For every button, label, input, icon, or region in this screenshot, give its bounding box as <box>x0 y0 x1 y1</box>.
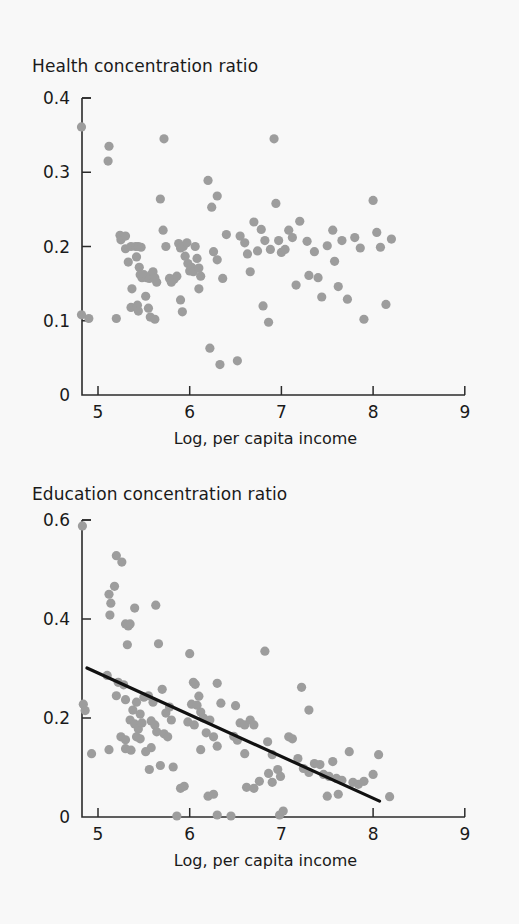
chart-panel-health: Health concentration ratio 00.10.20.30.4… <box>0 48 519 448</box>
data-point <box>156 194 165 203</box>
data-point <box>253 246 262 255</box>
data-point <box>317 292 326 301</box>
data-point <box>269 134 278 143</box>
data-point <box>376 243 385 252</box>
data-point <box>151 601 160 610</box>
data-point <box>169 762 178 771</box>
x-tick-label: 8 <box>368 402 379 422</box>
data-point <box>297 683 306 692</box>
y-tick-label: 0.4 <box>43 88 70 108</box>
data-point <box>334 282 343 291</box>
data-point <box>159 134 168 143</box>
x-tick-label: 7 <box>276 824 287 844</box>
data-point <box>291 281 300 290</box>
data-point <box>231 701 240 710</box>
data-point <box>126 746 135 755</box>
y-tick-label: 0.6 <box>43 510 70 530</box>
y-tick-label: 0.2 <box>43 708 70 728</box>
data-point <box>144 304 153 313</box>
data-point <box>106 599 115 608</box>
data-point <box>194 284 203 293</box>
x-axis-title: Log, per capita income <box>174 851 357 870</box>
data-point <box>112 314 121 323</box>
data-point <box>205 344 214 353</box>
data-point <box>159 226 168 235</box>
data-point <box>266 245 275 254</box>
x-tick-label: 8 <box>368 824 379 844</box>
data-point <box>130 604 139 613</box>
data-point <box>255 777 264 786</box>
data-point <box>240 749 249 758</box>
data-point <box>334 790 343 799</box>
data-point <box>330 257 339 266</box>
y-tick-label: 0.3 <box>43 162 70 182</box>
data-point <box>215 360 224 369</box>
data-point <box>123 640 132 649</box>
data-point <box>343 295 352 304</box>
data-point <box>381 300 390 309</box>
data-point <box>87 749 96 758</box>
data-point <box>191 680 200 689</box>
data-point <box>172 272 181 281</box>
data-point <box>310 247 319 256</box>
data-point <box>191 242 200 251</box>
data-point <box>369 196 378 205</box>
data-point <box>374 750 383 759</box>
data-point <box>104 142 113 151</box>
data-point <box>104 745 113 754</box>
data-point <box>190 720 199 729</box>
data-point <box>359 315 368 324</box>
data-point <box>268 778 277 787</box>
data-point <box>117 557 126 566</box>
chart-panel-education: Education concentration ratio 00.20.40.6… <box>0 480 519 910</box>
data-point <box>125 619 134 628</box>
data-point <box>313 273 322 282</box>
data-point <box>185 649 194 658</box>
data-point <box>145 765 154 774</box>
data-point <box>213 191 222 200</box>
data-point <box>147 743 156 752</box>
data-point <box>356 243 365 252</box>
data-point <box>369 770 378 779</box>
data-point <box>240 238 249 247</box>
data-point <box>103 157 112 166</box>
data-point <box>84 314 93 323</box>
x-tick-label: 6 <box>184 402 195 422</box>
data-point <box>196 272 205 281</box>
data-point <box>121 232 130 241</box>
x-tick-label: 7 <box>276 402 287 422</box>
data-point <box>328 757 337 766</box>
data-point <box>180 782 189 791</box>
data-point <box>359 777 368 786</box>
data-point <box>150 315 159 324</box>
data-point <box>249 720 258 729</box>
data-point <box>222 230 231 239</box>
data-point <box>105 610 114 619</box>
data-point <box>213 679 222 688</box>
data-point <box>213 810 222 819</box>
scatter-plot-health: 00.10.20.30.456789Log, per capita income <box>0 48 519 448</box>
data-point <box>315 760 324 769</box>
data-point <box>110 582 119 591</box>
data-point <box>203 176 212 185</box>
data-point <box>156 761 165 770</box>
data-point <box>271 199 280 208</box>
y-tick-label: 0.1 <box>43 311 70 331</box>
trend-line <box>87 668 380 801</box>
data-point <box>304 705 313 714</box>
data-point <box>152 278 161 287</box>
data-point <box>167 715 176 724</box>
data-point <box>132 252 141 261</box>
data-point <box>246 267 255 276</box>
data-point <box>121 695 130 704</box>
data-point <box>304 271 313 280</box>
scatter-plot-education: 00.20.40.656789Log, per capita income <box>0 480 519 910</box>
data-point <box>257 225 266 234</box>
x-axis-title: Log, per capita income <box>174 429 357 448</box>
data-point <box>233 356 242 365</box>
y-tick-label: 0 <box>59 807 70 827</box>
data-point <box>218 274 227 283</box>
data-point <box>295 217 304 226</box>
data-point <box>258 301 267 310</box>
data-point <box>226 811 235 820</box>
